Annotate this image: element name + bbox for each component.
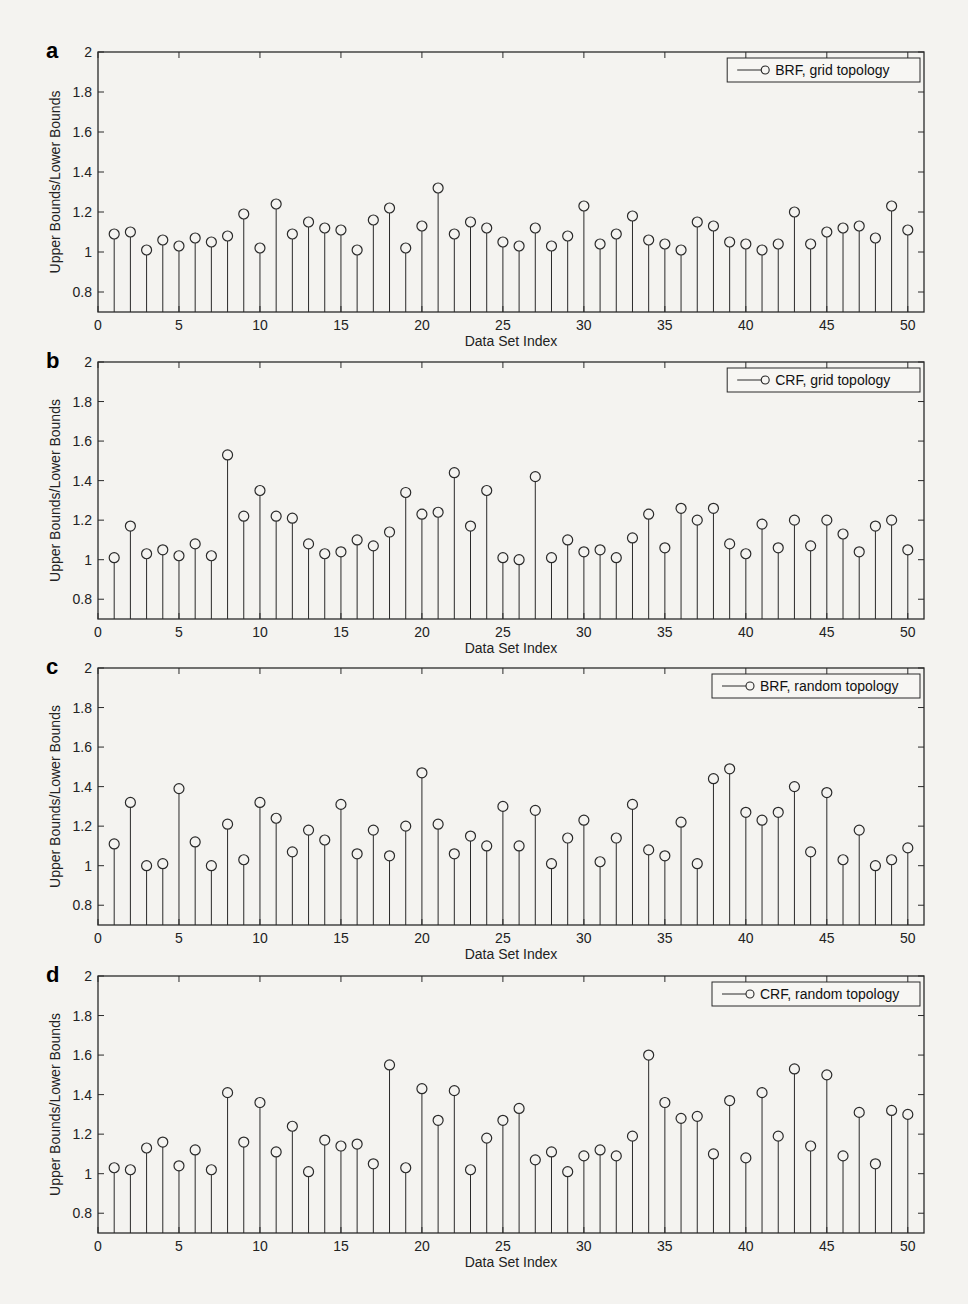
stem-marker — [692, 859, 702, 869]
stem-marker — [789, 1064, 799, 1074]
stem-marker — [255, 1098, 265, 1108]
stem-marker — [806, 1141, 816, 1151]
stem-plot-a: a0.811.21.41.61.8205101520253035404550Da… — [0, 28, 968, 348]
stem-marker — [660, 239, 670, 249]
stem-marker — [174, 1161, 184, 1171]
stem-marker — [401, 243, 411, 253]
legend: CRF, grid topology — [727, 368, 920, 392]
stem-series — [109, 764, 913, 925]
x-tick-label: 20 — [414, 930, 430, 946]
legend: BRF, random topology — [712, 674, 920, 698]
stem-marker — [627, 799, 637, 809]
stem-marker — [903, 225, 913, 235]
stem-marker — [757, 519, 767, 529]
stem-marker — [320, 1135, 330, 1145]
stem-marker — [870, 233, 880, 243]
stem-marker — [158, 1137, 168, 1147]
stem-marker — [725, 1096, 735, 1106]
stem-marker — [644, 235, 654, 245]
stem-marker — [660, 1098, 670, 1108]
y-tick-label: 1.4 — [73, 473, 93, 489]
x-tick-label: 10 — [252, 624, 268, 640]
stem-marker — [530, 805, 540, 815]
stem-marker — [660, 543, 670, 553]
y-axis-label: Upper Bounds/Lower Bounds — [47, 705, 63, 888]
x-tick-label: 25 — [495, 317, 511, 333]
stem-marker — [125, 797, 135, 807]
subplot-d: d0.811.21.41.61.8205101520253035404550Da… — [0, 948, 968, 1278]
stem-marker — [142, 1143, 152, 1153]
y-axis-label: Upper Bounds/Lower Bounds — [47, 399, 63, 582]
y-tick-label: 1.2 — [73, 512, 93, 528]
subplot-c: c0.811.21.41.61.8205101520253035404550Da… — [0, 642, 968, 962]
y-tick-label: 0.8 — [73, 591, 93, 607]
stem-marker — [546, 1147, 556, 1157]
stem-marker — [271, 511, 281, 521]
stem-marker — [206, 861, 216, 871]
stem-marker — [368, 1159, 378, 1169]
stem-marker — [806, 541, 816, 551]
stem-marker — [644, 509, 654, 519]
stem-marker — [352, 1139, 362, 1149]
stem-marker — [449, 1086, 459, 1096]
subplot-b: b0.811.21.41.61.8205101520253035404550Da… — [0, 336, 968, 656]
x-tick-label: 45 — [819, 317, 835, 333]
y-tick-label: 1.4 — [73, 1087, 93, 1103]
stem-marker — [368, 541, 378, 551]
panel-letter: c — [46, 654, 58, 679]
x-tick-label: 10 — [252, 1238, 268, 1254]
stem-marker — [336, 547, 346, 557]
x-tick-label: 0 — [94, 930, 102, 946]
panel-letter: a — [46, 38, 59, 63]
x-tick-label: 30 — [576, 317, 592, 333]
stem-marker — [773, 239, 783, 249]
stem-marker — [611, 229, 621, 239]
stem-marker — [352, 535, 362, 545]
stem-marker — [223, 450, 233, 460]
stem-marker — [822, 1070, 832, 1080]
stem-marker — [854, 221, 864, 231]
stem-marker — [789, 207, 799, 217]
x-tick-label: 0 — [94, 317, 102, 333]
stem-marker — [401, 487, 411, 497]
x-tick-label: 15 — [333, 930, 349, 946]
stem-marker — [174, 784, 184, 794]
stem-marker — [466, 1165, 476, 1175]
stem-marker — [190, 233, 200, 243]
x-tick-label: 0 — [94, 624, 102, 640]
stem-marker — [887, 515, 897, 525]
stem-series — [109, 450, 913, 619]
stem-marker — [352, 245, 362, 255]
stem-marker — [773, 1131, 783, 1141]
y-tick-label: 1.2 — [73, 204, 93, 220]
stem-marker — [304, 825, 314, 835]
stem-marker — [109, 1163, 119, 1173]
stem-marker — [482, 486, 492, 496]
y-tick-label: 1 — [84, 552, 92, 568]
stem-marker — [692, 1111, 702, 1121]
x-tick-label: 35 — [657, 930, 673, 946]
stem-marker — [708, 503, 718, 513]
y-tick-label: 1.6 — [73, 1047, 93, 1063]
stem-marker — [401, 821, 411, 831]
stem-marker — [109, 229, 119, 239]
y-tick-label: 1.6 — [73, 433, 93, 449]
x-tick-label: 5 — [175, 317, 183, 333]
stem-marker — [822, 515, 832, 525]
stem-marker — [287, 847, 297, 857]
stem-marker — [530, 1155, 540, 1165]
stem-marker — [190, 837, 200, 847]
stem-marker — [433, 1115, 443, 1125]
stem-marker — [627, 533, 637, 543]
y-tick-label: 0.8 — [73, 897, 93, 913]
stem-marker — [206, 1165, 216, 1175]
y-tick-label: 1.8 — [73, 394, 93, 410]
stem-marker — [320, 223, 330, 233]
stem-marker — [725, 539, 735, 549]
x-tick-label: 15 — [333, 624, 349, 640]
stem-marker — [304, 539, 314, 549]
stem-marker — [563, 231, 573, 241]
x-tick-label: 25 — [495, 930, 511, 946]
stem-marker — [287, 229, 297, 239]
stem-marker — [482, 223, 492, 233]
